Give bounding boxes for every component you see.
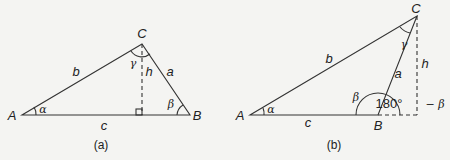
side-c-label: c	[101, 118, 108, 133]
side-b-label: b	[72, 64, 79, 79]
vertex-c-label: C	[137, 26, 147, 41]
vertex-c-label: C	[411, 1, 421, 16]
side-c-label: c	[305, 115, 312, 130]
gamma-label: γ	[401, 38, 408, 51]
beta-arc-a	[177, 105, 183, 115]
exterior-angle-minus-beta: − β	[425, 98, 444, 111]
right-angle-mark	[136, 109, 142, 115]
figure-a: C A B b a c h γ α β (a)	[7, 26, 202, 152]
height-h-label: h	[145, 64, 152, 79]
vertex-a-label: A	[7, 108, 17, 123]
alpha-arc-a	[34, 107, 36, 115]
side-b-label: b	[325, 51, 332, 66]
vertex-b-label: B	[193, 108, 202, 123]
triangle-a	[22, 44, 190, 115]
vertex-b-label: B	[374, 118, 383, 133]
gamma-arc-b	[400, 27, 410, 33]
triangle-diagrams: C A B b a c h γ α β (a) C A B b a c h γ …	[0, 0, 450, 160]
caption-b: (b)	[327, 138, 342, 152]
caption-a: (a)	[94, 138, 109, 152]
exterior-angle-180: 180°	[376, 96, 403, 111]
side-a-label: a	[394, 66, 401, 81]
height-h-label: h	[421, 56, 428, 71]
beta-label: β	[167, 98, 174, 111]
vertex-a-label: A	[235, 108, 245, 123]
alpha-label: α	[267, 103, 275, 116]
alpha-label: α	[39, 103, 47, 116]
beta-label: β	[352, 91, 359, 104]
alpha-arc-b	[263, 108, 264, 115]
figure-b: C A B b a c h γ α β 180° − β (b)	[235, 1, 445, 152]
side-a-label: a	[166, 64, 173, 79]
gamma-label: γ	[130, 57, 137, 70]
